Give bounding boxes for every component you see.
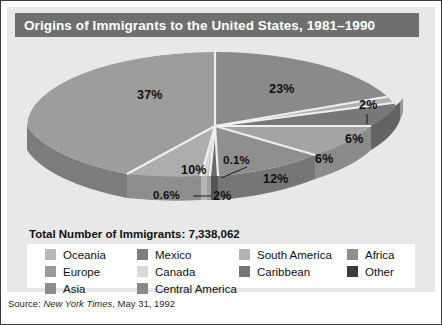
legend-swatch-canada	[137, 266, 148, 277]
legend-label: Africa	[365, 249, 394, 261]
legend-label: Other	[365, 266, 394, 278]
legend-label: Caribbean	[257, 266, 310, 278]
legend-column: Oceania Europe Asia	[45, 248, 106, 299]
legend-swatch-central-america	[137, 283, 148, 294]
legend-item-canada[interactable]: Canada	[137, 265, 237, 278]
slice-label: 12%	[263, 172, 289, 186]
source-publication: New York Times	[43, 298, 112, 309]
legend: Oceania Europe Asia Mexico Ca	[27, 244, 415, 288]
title-bar: Origins of Immigrants to the United Stat…	[15, 13, 419, 37]
slice-label: 6%	[345, 132, 363, 146]
figure-frame: Origins of Immigrants to the United Stat…	[0, 0, 442, 325]
legend-swatch-oceania	[45, 249, 56, 260]
legend-item-other[interactable]: Other	[347, 265, 394, 278]
legend-item-africa[interactable]: Africa	[347, 248, 394, 261]
slice-label: 2%	[359, 98, 377, 112]
slice-label: 37%	[137, 88, 163, 102]
slice-label: 6%	[315, 152, 333, 166]
slice-label: 0.1%	[223, 154, 250, 166]
legend-label: Oceania	[63, 249, 106, 261]
legend-swatch-asia	[45, 283, 56, 294]
legend-item-asia[interactable]: Asia	[45, 282, 106, 295]
legend-item-europe[interactable]: Europe	[45, 265, 106, 278]
source-prefix: Source:	[8, 298, 43, 309]
legend-label: Canada	[155, 266, 195, 278]
chart-panel: Origins of Immigrants to the United Stat…	[7, 7, 435, 292]
legend-label: Asia	[63, 283, 85, 295]
source-note: Source: New York Times, May 31, 1992	[8, 298, 175, 309]
legend-item-mexico[interactable]: Mexico	[137, 248, 237, 261]
legend-swatch-south-america	[239, 249, 250, 260]
pie-chart: 37% 23% 2% 6% 6% 12% 0.1% 10% 0.6% 2%	[15, 40, 419, 225]
legend-column: Mexico Canada Central America	[137, 248, 237, 299]
legend-item-caribbean[interactable]: Caribbean	[239, 265, 332, 278]
legend-label: Central America	[155, 283, 237, 295]
legend-swatch-mexico	[137, 249, 148, 260]
slice-label: 2%	[213, 189, 231, 203]
source-suffix: , May 31, 1992	[112, 298, 175, 309]
slice-label: 10%	[181, 163, 207, 177]
legend-label: Europe	[63, 266, 100, 278]
legend-swatch-africa	[347, 249, 358, 260]
legend-item-oceania[interactable]: Oceania	[45, 248, 106, 261]
slice-label: 23%	[269, 82, 295, 96]
legend-item-central-america[interactable]: Central America	[137, 282, 237, 295]
legend-swatch-caribbean	[239, 266, 250, 277]
legend-swatch-europe	[45, 266, 56, 277]
page-title: Origins of Immigrants to the United Stat…	[15, 18, 375, 33]
legend-column: South America Caribbean	[239, 248, 332, 282]
slice-label: 0.6%	[153, 189, 180, 201]
total-immigrants-label: Total Number of Immigrants: 7,338,062	[29, 228, 240, 240]
legend-column: Africa Other	[347, 248, 394, 282]
legend-swatch-other	[347, 266, 358, 277]
legend-label: South America	[257, 249, 332, 261]
legend-item-south-america[interactable]: South America	[239, 248, 332, 261]
legend-label: Mexico	[155, 249, 191, 261]
